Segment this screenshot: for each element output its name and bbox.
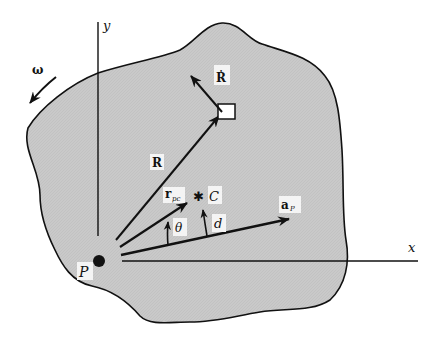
d-label: d bbox=[214, 216, 222, 231]
point-P-dot bbox=[93, 255, 105, 267]
x-axis-label: x bbox=[408, 240, 416, 255]
r-pc-label: r bbox=[165, 187, 172, 201]
P-label: P bbox=[78, 264, 89, 280]
a-P-subscript: P bbox=[289, 205, 295, 213]
r-pc-subscript: pc bbox=[172, 195, 180, 203]
C-label: C bbox=[209, 189, 219, 204]
omega-rotation-arrow bbox=[30, 77, 56, 103]
a-P-label: a bbox=[281, 198, 289, 212]
omega-label: ω bbox=[32, 63, 43, 77]
R-dot-label: Ṙ bbox=[216, 70, 227, 85]
R-label: R bbox=[152, 156, 163, 170]
rigid-body-diagram: y x ω R Ṙ r pc ✱ C a P θ d P bbox=[0, 0, 440, 344]
theta-label: θ bbox=[175, 221, 183, 235]
rigid-body-shape bbox=[27, 23, 348, 323]
theta-angle-arrow bbox=[168, 222, 169, 245]
y-axis-label: y bbox=[102, 18, 111, 33]
center-C-star-icon: ✱ bbox=[193, 189, 204, 204]
